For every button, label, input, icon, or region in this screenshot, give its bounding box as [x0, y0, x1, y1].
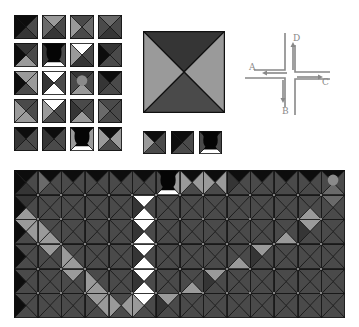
tile-graphic — [321, 293, 345, 318]
world-cell — [227, 219, 251, 244]
example-tile — [199, 131, 222, 154]
tile-graphic — [61, 293, 85, 318]
legend-tile — [70, 127, 94, 151]
tile-graphic — [85, 170, 109, 195]
tile-graphic — [42, 15, 66, 39]
legend-tile — [14, 43, 38, 67]
legend-tile — [42, 71, 66, 95]
tile-graphic — [156, 219, 180, 244]
legend-tile — [14, 127, 38, 151]
world-cell — [14, 244, 38, 269]
world-cell — [85, 244, 109, 269]
world-cell — [274, 170, 298, 195]
grid-node — [273, 194, 275, 196]
world-cell — [38, 269, 62, 294]
tile-graphic — [203, 195, 227, 220]
world-cell — [61, 269, 85, 294]
tile-graphic — [298, 293, 322, 318]
tile-graphic — [227, 244, 251, 269]
world-cell — [109, 293, 133, 318]
tile-graphic — [274, 244, 298, 269]
tile-graphic — [61, 195, 85, 220]
tile-graphic — [321, 219, 345, 244]
tile-graphic — [203, 219, 227, 244]
grid-node — [226, 243, 228, 245]
grid-node — [179, 243, 181, 245]
crossroads-svg: A B C D — [240, 25, 359, 125]
tile-graphic — [180, 244, 204, 269]
tile-graphic — [143, 131, 166, 154]
world-cell — [61, 244, 85, 269]
tile-graphic — [250, 170, 274, 195]
grid-node — [84, 268, 86, 270]
tile-graphic — [321, 269, 345, 294]
world-cell — [250, 195, 274, 220]
world-cell — [109, 170, 133, 195]
tile-graphic — [14, 15, 38, 39]
tile-graphic — [38, 244, 62, 269]
label-a: A — [248, 62, 256, 72]
tile-graphic — [132, 244, 156, 269]
tile-graphic — [180, 293, 204, 318]
world-cell — [61, 170, 85, 195]
world-cell — [298, 269, 322, 294]
world-cell — [85, 195, 109, 220]
world-cell — [227, 170, 251, 195]
tile-graphic — [14, 269, 38, 294]
tile-graphic — [38, 170, 62, 195]
world-cell — [38, 170, 62, 195]
tile-graphic — [70, 71, 94, 95]
grid-node — [155, 268, 157, 270]
world-cell — [156, 219, 180, 244]
world-cell — [180, 170, 204, 195]
grid-node — [108, 194, 110, 196]
world-cell — [132, 269, 156, 294]
world-cell — [203, 170, 227, 195]
legend-tile — [98, 71, 122, 95]
world-cell — [180, 244, 204, 269]
tile-graphic — [70, 127, 94, 151]
world-cell — [132, 293, 156, 318]
grid-node — [155, 194, 157, 196]
world-cell — [321, 244, 345, 269]
legend-tile — [14, 71, 38, 95]
tile-graphic — [98, 127, 122, 151]
tile-graphic — [42, 43, 66, 67]
world-cell — [203, 244, 227, 269]
tile-graphic — [250, 269, 274, 294]
world-cell — [298, 293, 322, 318]
tile-graphic — [42, 99, 66, 123]
legend-tile — [98, 43, 122, 67]
tile-graphic — [109, 269, 133, 294]
tile-graphic — [250, 293, 274, 318]
tile-graphic — [156, 244, 180, 269]
road-edge-top-left — [254, 33, 285, 70]
tile-graphic — [70, 15, 94, 39]
world-cell — [321, 195, 345, 220]
legend-tile — [42, 43, 66, 67]
world-cell — [14, 170, 38, 195]
tile-graphic — [14, 71, 38, 95]
grid-node — [131, 194, 133, 196]
world-cell — [85, 170, 109, 195]
world-cell — [14, 195, 38, 220]
world-cell — [38, 195, 62, 220]
tile-graphic — [14, 43, 38, 67]
grid-node — [202, 268, 204, 270]
arrow-a-head-icon — [262, 71, 267, 76]
tile-graphic — [203, 269, 227, 294]
tile-graphic — [298, 219, 322, 244]
tile-graphic — [98, 43, 122, 67]
example-tile — [171, 131, 194, 154]
tile-graphic — [298, 244, 322, 269]
grid-node — [297, 268, 299, 270]
agent-icon — [77, 75, 88, 86]
grid-node — [179, 194, 181, 196]
label-d: D — [293, 33, 300, 43]
tile-graphic — [109, 244, 133, 269]
world-cell — [109, 195, 133, 220]
grid-node — [84, 243, 86, 245]
tile-graphic — [61, 244, 85, 269]
world-cell — [274, 244, 298, 269]
world-cell — [180, 293, 204, 318]
